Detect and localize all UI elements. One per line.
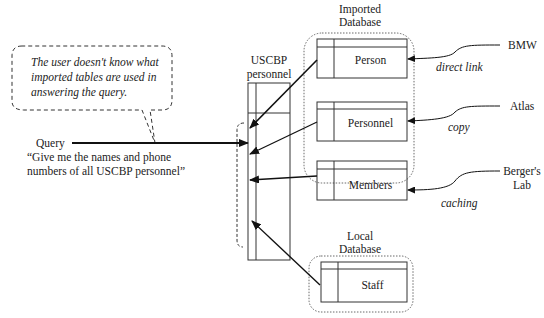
callout-line-1: The user doesn't know what (31, 55, 159, 70)
uscbp-personnel-table (237, 83, 290, 260)
imported-db-title-line-2: Database (320, 15, 400, 29)
arrow-bergers-to-members (408, 171, 500, 190)
table-personnel-name: Personnel (334, 116, 407, 130)
query-text-line-1: “Give me the names and phone (27, 150, 171, 164)
local-db-title-line-2: Database (320, 242, 400, 256)
method-caching: caching (441, 196, 477, 210)
table-members-name: Members (334, 178, 407, 192)
arrow-bmw-to-person (408, 45, 500, 59)
arrow-atlas-to-personnel (408, 106, 500, 121)
callout-line-3: answering the query. (31, 85, 127, 100)
source-bergers-lab-line-2: Lab (500, 178, 544, 192)
table-person-name: Person (334, 53, 407, 67)
source-bergers-lab-line-1: Berger's (500, 164, 544, 178)
query-text-line-2: numbers of all USCBP personnel” (27, 164, 185, 178)
imported-db-title-line-1: Imported (320, 2, 400, 16)
callout-line-2: imported tables are used in (31, 70, 156, 85)
view-title-line-2: personnel (236, 67, 302, 81)
query-label: Query (36, 136, 65, 150)
arrow-personnel-to-view (250, 122, 317, 154)
local-db-title-line-1: Local (320, 229, 400, 243)
union-bracket (237, 123, 244, 247)
method-direct-link: direct link (436, 60, 483, 74)
method-copy: copy (448, 120, 470, 134)
source-bmw: BMW (508, 38, 537, 52)
table-staff-name: Staff (338, 278, 407, 292)
arrow-staff-to-view (252, 221, 320, 285)
source-atlas: Atlas (510, 99, 534, 113)
view-title-line-1: USCBP (236, 53, 302, 67)
arrow-members-to-view (250, 176, 317, 180)
